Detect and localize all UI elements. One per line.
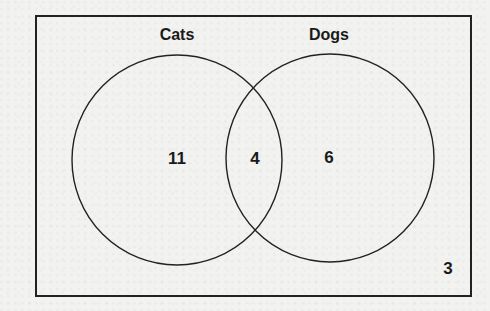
intersection-count: 4 bbox=[250, 149, 260, 168]
venn-svg: Cats Dogs 11 4 6 3 bbox=[0, 0, 490, 311]
dogs-label: Dogs bbox=[309, 26, 349, 43]
cats-only-count: 11 bbox=[168, 149, 186, 168]
outside-count: 3 bbox=[443, 259, 452, 278]
dogs-only-count: 6 bbox=[324, 148, 333, 167]
venn-diagram: Cats Dogs 11 4 6 3 bbox=[0, 0, 490, 311]
cats-label: Cats bbox=[160, 26, 195, 43]
